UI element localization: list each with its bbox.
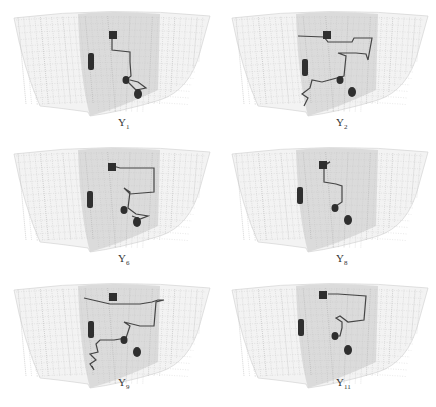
waypoint-marker <box>123 76 130 84</box>
obstacle-bar <box>88 53 94 70</box>
goal-marker <box>344 345 352 355</box>
obstacle-bar <box>302 59 308 76</box>
panel-label: Y8 <box>336 252 347 267</box>
obstacle-bar <box>298 319 304 336</box>
panel-label: Y2 <box>336 116 347 131</box>
obstacle-bar <box>297 187 303 204</box>
panel-p9: Y9 <box>0 272 218 407</box>
panel-p2: Y2 <box>218 0 436 136</box>
mesh-render <box>0 136 218 272</box>
goal-marker <box>134 89 142 99</box>
start-marker <box>109 293 117 301</box>
start-marker <box>323 31 331 39</box>
obstacle-bar <box>87 191 93 208</box>
waypoint-marker <box>337 76 344 84</box>
start-marker <box>319 161 327 169</box>
obstacle-bar <box>88 321 94 338</box>
mesh-render <box>218 272 436 407</box>
goal-marker <box>348 87 356 97</box>
goal-marker <box>133 217 141 227</box>
goal-marker <box>133 347 141 357</box>
waypoint-marker <box>121 206 128 214</box>
panel-label: Y1 <box>118 116 129 131</box>
goal-marker <box>344 215 352 225</box>
waypoint-marker <box>332 204 339 212</box>
mesh-render <box>0 0 218 136</box>
start-marker <box>319 291 327 299</box>
panel-label: Y9 <box>118 376 129 391</box>
panel-label: Y6 <box>118 252 129 267</box>
panel-label: Y11 <box>336 376 351 391</box>
panel-p1: Y1 <box>0 0 218 136</box>
waypoint-marker <box>332 332 339 340</box>
mesh-render <box>0 272 218 407</box>
start-marker <box>109 31 117 39</box>
waypoint-marker <box>121 336 128 344</box>
mesh-render <box>218 0 436 136</box>
start-marker <box>108 163 116 171</box>
mesh-render <box>218 136 436 272</box>
panel-p8: Y8 <box>218 136 436 272</box>
panel-p6: Y6 <box>0 136 218 272</box>
panel-p11: Y11 <box>218 272 436 407</box>
